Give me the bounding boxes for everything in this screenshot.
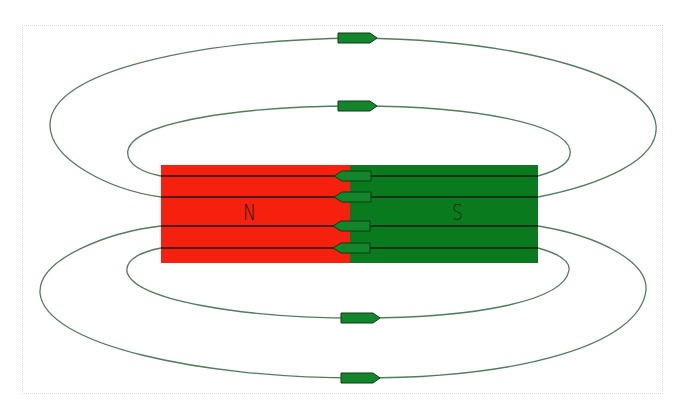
arrow-left-icon	[334, 171, 371, 181]
arrow-left-icon	[333, 243, 370, 253]
south-pole-label: S	[452, 202, 463, 224]
arrow-left-icon	[334, 192, 371, 202]
magnet-field-diagram: N S	[0, 0, 683, 419]
arrow-right-icon	[341, 313, 380, 323]
arrow-right-icon	[341, 373, 380, 383]
arrow-left-icon	[333, 221, 370, 231]
arrow-right-icon	[338, 33, 377, 43]
north-pole-label: N	[243, 202, 256, 224]
arrow-right-icon	[338, 101, 377, 111]
field-diagram-svg	[0, 0, 683, 419]
